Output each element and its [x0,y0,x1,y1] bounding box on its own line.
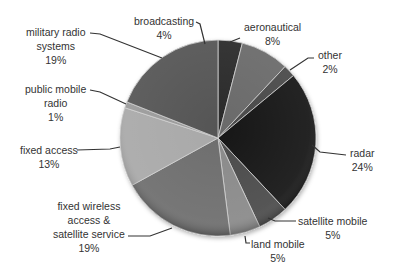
label-text: land mobile [251,237,305,251]
label-broadcasting: broadcasting 4% [134,14,194,42]
leader-public-mobile [90,90,126,104]
label-text: systems [26,39,86,53]
label-pct: 4% [134,28,194,42]
leader-fixed-wireless [128,228,172,236]
label-pct: 8% [244,34,301,48]
leader-land-mobile [245,236,250,243]
leader-radar [312,145,346,155]
label-text: satellite mobile [298,214,367,228]
label-land-mobile: land mobile 5% [251,237,305,265]
pie-shading [120,40,316,236]
label-text: satellite service [53,227,125,241]
leader-broadcasting [196,22,205,44]
label-pct: 13% [20,157,78,171]
label-aeronautical: aeronautical 8% [244,20,301,48]
leader-fixed-access [77,147,120,150]
label-text: fixed access [20,143,78,157]
label-radar: radar 24% [350,146,375,174]
label-text: other [318,48,342,62]
label-fixed-access: fixed access 13% [20,143,78,171]
leader-other [290,58,314,70]
label-pct: 24% [350,160,375,174]
label-text: public mobile [25,82,86,96]
label-military: military radio systems 19% [26,25,86,67]
label-public-mobile: public mobile radio 1% [25,82,86,124]
label-text: access & [53,213,125,227]
label-text: fixed wireless [53,199,125,213]
label-fixed-wireless: fixed wireless access & satellite servic… [53,199,125,255]
label-pct: 5% [251,251,305,265]
label-pct: 1% [25,110,86,124]
label-text: radar [350,146,375,160]
label-pct: 5% [298,228,367,242]
label-other: other 2% [318,48,342,76]
label-text: broadcasting [134,14,194,28]
label-pct: 19% [26,53,86,67]
label-text: aeronautical [244,20,301,34]
label-pct: 2% [318,62,342,76]
label-pct: 19% [53,241,125,255]
label-text: military radio [26,25,86,39]
label-text: radio [25,96,86,110]
label-satellite-mobile: satellite mobile 5% [298,214,367,242]
